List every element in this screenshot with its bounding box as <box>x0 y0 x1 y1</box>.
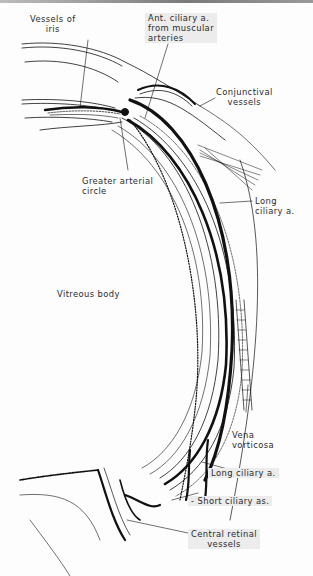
diagram-canvas: Vessels of iris Ant. ciliary a. from mus… <box>0 0 313 576</box>
label-conjunctival-vessels: Conjunctival vessels <box>216 87 273 107</box>
label-greater-arterial-circle: Greater arterial circle <box>82 176 153 196</box>
label-long-ciliary-lower: Long ciliary a. <box>208 468 279 478</box>
greater-arterial-circle-dot <box>122 109 129 116</box>
optic-nerve <box>20 468 140 576</box>
iris-vessels <box>45 107 122 118</box>
label-vitreous-body: Vitreous body <box>57 289 120 299</box>
rectus-muscle <box>198 145 262 190</box>
label-vena-vorticosa: Vena vorticosa <box>232 430 274 450</box>
label-long-ciliary-upper: Long ciliary a. <box>255 196 295 216</box>
label-short-ciliary-arteries: - Short ciliary as. <box>188 496 272 506</box>
label-central-retinal-vessels: Central retinal vessels <box>188 529 260 549</box>
label-ant-ciliary-artery: Ant. ciliary a. from muscular arteries <box>145 13 217 43</box>
long-ciliary-artery <box>130 100 233 480</box>
vena-vorticosa <box>236 300 252 410</box>
label-vessels-of-iris: Vessels of iris <box>30 14 76 34</box>
leader-lines <box>80 40 252 533</box>
